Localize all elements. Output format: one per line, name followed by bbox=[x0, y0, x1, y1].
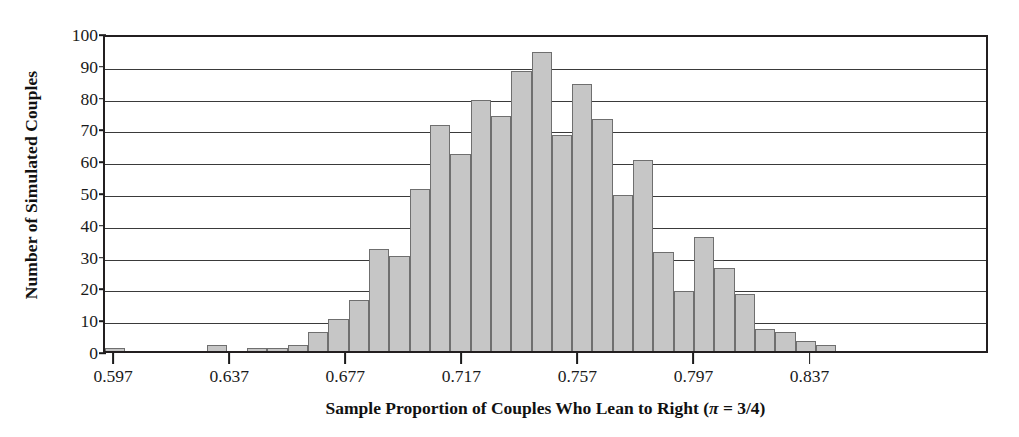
y-axis-tick-label: 90 bbox=[50, 56, 98, 77]
histogram-bar bbox=[288, 345, 308, 351]
histogram-bar bbox=[633, 160, 653, 351]
x-axis-title: Sample Proportion of Couples Who Lean to… bbox=[103, 398, 988, 419]
histogram-figure: Number of Simulated Couples 010203040506… bbox=[0, 0, 1019, 437]
histogram-bar bbox=[308, 332, 328, 351]
histogram-bar bbox=[328, 319, 348, 351]
y-axis-tick-label: 50 bbox=[50, 184, 98, 205]
histogram-bar bbox=[450, 154, 470, 351]
histogram-bar bbox=[389, 256, 409, 351]
histogram-bar bbox=[613, 195, 633, 351]
histogram-bar bbox=[369, 249, 389, 351]
histogram-bar bbox=[694, 237, 714, 351]
histogram-bar bbox=[735, 294, 755, 351]
histogram-bar bbox=[207, 345, 227, 351]
histogram-bar bbox=[430, 125, 450, 351]
pi-symbol: π bbox=[709, 398, 719, 418]
x-axis-tick-mark bbox=[460, 353, 462, 364]
plot-area bbox=[103, 35, 988, 353]
histogram-bar bbox=[267, 348, 287, 351]
x-axis-tick-mark bbox=[577, 353, 579, 364]
histogram-bar bbox=[775, 332, 795, 351]
y-axis-title: Number of Simulated Couples bbox=[16, 15, 46, 355]
y-axis-tick-labels: 0102030405060708090100 bbox=[50, 0, 98, 437]
histogram-bar bbox=[491, 116, 511, 351]
x-axis-tick-label: 0.797 bbox=[674, 366, 713, 387]
histogram-bar bbox=[247, 348, 267, 351]
histogram-bar bbox=[674, 291, 694, 351]
x-axis-tick-labels: 0.5970.6370.6770.7170.7570.7970.837 bbox=[103, 353, 988, 437]
y-axis-tick-label: 20 bbox=[50, 279, 98, 300]
x-axis-title-tail: = 3/4) bbox=[719, 398, 766, 418]
x-axis-tick-mark bbox=[693, 353, 695, 364]
histogram-bar bbox=[796, 341, 816, 351]
x-axis-tick-label: 0.757 bbox=[558, 366, 597, 387]
histogram-bar bbox=[653, 252, 673, 351]
y-axis-tick-label: 60 bbox=[50, 152, 98, 173]
x-axis-tick-label: 0.677 bbox=[326, 366, 365, 387]
y-axis-tick-label: 70 bbox=[50, 120, 98, 141]
y-axis-tick-label: 80 bbox=[50, 88, 98, 109]
y-axis-tick-label: 100 bbox=[50, 25, 98, 46]
histogram-bar bbox=[816, 345, 836, 351]
y-axis-tick-label: 40 bbox=[50, 215, 98, 236]
histogram-bar bbox=[349, 300, 369, 351]
x-axis-title-main: Sample Proportion of Couples Who Lean to… bbox=[326, 398, 709, 418]
y-axis-tick-label: 10 bbox=[50, 311, 98, 332]
histogram-bar bbox=[552, 135, 572, 351]
histogram-bar bbox=[532, 52, 552, 351]
histogram-bar bbox=[471, 100, 491, 351]
x-axis-tick-mark bbox=[344, 353, 346, 364]
histogram-bars bbox=[105, 37, 986, 351]
histogram-bar bbox=[572, 84, 592, 351]
histogram-bar bbox=[755, 329, 775, 351]
histogram-bar bbox=[511, 71, 531, 351]
x-axis-tick-mark bbox=[228, 353, 230, 364]
x-axis-tick-label: 0.597 bbox=[93, 366, 132, 387]
x-axis-tick-mark bbox=[112, 353, 114, 364]
x-axis-tick-label: 0.717 bbox=[442, 366, 481, 387]
x-axis-tick-label: 0.637 bbox=[210, 366, 249, 387]
x-axis-tick-label: 0.837 bbox=[790, 366, 829, 387]
y-axis-tick-label: 30 bbox=[50, 247, 98, 268]
histogram-bar bbox=[714, 268, 734, 351]
histogram-bar bbox=[410, 189, 430, 351]
histogram-bar bbox=[105, 348, 125, 351]
histogram-bar bbox=[592, 119, 612, 351]
y-axis-tick-label: 0 bbox=[50, 343, 98, 364]
x-axis-tick-mark bbox=[809, 353, 811, 364]
